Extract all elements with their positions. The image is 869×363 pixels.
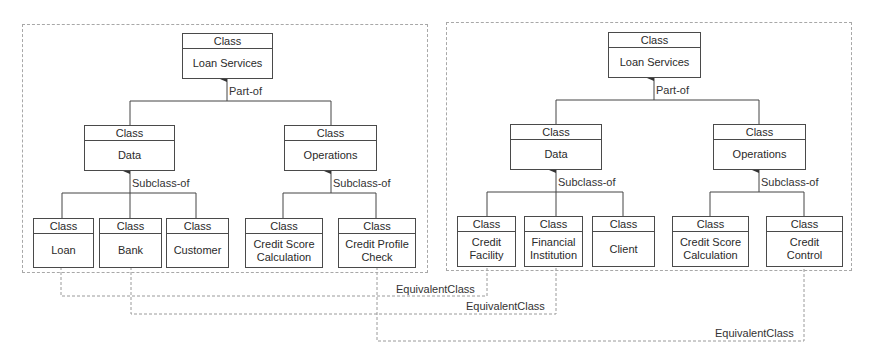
class-name: Client bbox=[593, 232, 654, 266]
class-name: Credit Score Calculation bbox=[673, 232, 748, 266]
relation-label-subclass-of: Subclass-of bbox=[132, 177, 189, 189]
class-name: Financial Institution bbox=[525, 232, 582, 266]
stereotype-label: Class bbox=[85, 126, 174, 141]
relation-label-subclass-of: Subclass-of bbox=[558, 176, 615, 188]
right-class-client[interactable]: Class Client bbox=[592, 216, 655, 267]
relation-label-subclass-of: Subclass-of bbox=[761, 176, 818, 188]
class-name: Data bbox=[511, 140, 601, 169]
left-class-operations[interactable]: Class Operations bbox=[284, 125, 377, 171]
class-name: Loan bbox=[34, 234, 93, 267]
class-name: Operations bbox=[285, 141, 376, 170]
stereotype-label: Class bbox=[285, 126, 376, 141]
right-class-credit-score-calculation[interactable]: Class Credit Score Calculation bbox=[672, 216, 749, 267]
class-name: Loan Services bbox=[609, 48, 700, 77]
relation-label-part-of: Part-of bbox=[656, 84, 689, 96]
left-class-credit-profile-check[interactable]: Class Credit Profile Check bbox=[338, 218, 416, 268]
relation-label-subclass-of: Subclass-of bbox=[333, 177, 390, 189]
class-name: Operations bbox=[714, 140, 805, 169]
stereotype-label: Class bbox=[458, 217, 515, 232]
class-name: Data bbox=[85, 141, 174, 170]
right-class-credit-facility[interactable]: Class Credit Facility bbox=[457, 216, 516, 267]
class-name: Bank bbox=[100, 234, 161, 267]
right-class-data[interactable]: Class Data bbox=[510, 124, 602, 170]
left-class-bank[interactable]: Class Bank bbox=[99, 218, 162, 268]
stereotype-label: Class bbox=[767, 217, 842, 232]
right-class-loan-services[interactable]: Class Loan Services bbox=[608, 32, 701, 78]
equivalent-class-label: EquivalentClass bbox=[715, 327, 794, 339]
equivalent-class-label: EquivalentClass bbox=[396, 283, 475, 295]
left-class-credit-score-calculation[interactable]: Class Credit Score Calculation bbox=[245, 218, 323, 268]
class-name: Loan Services bbox=[183, 49, 272, 78]
right-class-financial-institution[interactable]: Class Financial Institution bbox=[524, 216, 583, 267]
class-name: Credit Facility bbox=[458, 232, 515, 266]
stereotype-label: Class bbox=[183, 34, 272, 49]
stereotype-label: Class bbox=[525, 217, 582, 232]
stereotype-label: Class bbox=[511, 125, 601, 140]
stereotype-label: Class bbox=[673, 217, 748, 232]
equivalent-class-label: EquivalentClass bbox=[466, 300, 545, 312]
stereotype-label: Class bbox=[339, 219, 415, 234]
relation-label-part-of: Part-of bbox=[229, 85, 262, 97]
right-class-operations[interactable]: Class Operations bbox=[713, 124, 806, 170]
stereotype-label: Class bbox=[167, 219, 228, 234]
stereotype-label: Class bbox=[593, 217, 654, 232]
right-class-credit-control[interactable]: Class Credit Control bbox=[766, 216, 843, 267]
stereotype-label: Class bbox=[246, 219, 322, 234]
left-class-data[interactable]: Class Data bbox=[84, 125, 175, 171]
stereotype-label: Class bbox=[609, 33, 700, 48]
stereotype-label: Class bbox=[714, 125, 805, 140]
class-name: Credit Score Calculation bbox=[246, 234, 322, 267]
class-name: Credit Profile Check bbox=[339, 234, 415, 267]
left-class-loan-services[interactable]: Class Loan Services bbox=[182, 33, 273, 79]
class-name: Customer bbox=[167, 234, 228, 267]
left-class-customer[interactable]: Class Customer bbox=[166, 218, 229, 268]
stereotype-label: Class bbox=[34, 219, 93, 234]
stereotype-label: Class bbox=[100, 219, 161, 234]
class-name: Credit Control bbox=[767, 232, 842, 266]
left-class-loan[interactable]: Class Loan bbox=[33, 218, 94, 268]
